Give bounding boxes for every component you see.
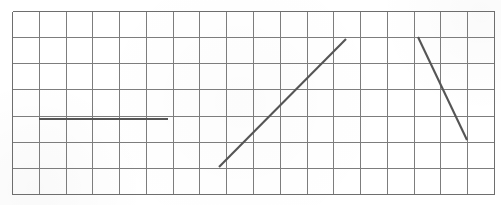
falling-diagonal-segment: [418, 37, 467, 140]
grid-line-figure: [0, 0, 501, 205]
rising-diagonal-segment: [219, 39, 346, 167]
figure-canvas: [0, 0, 501, 205]
grid-lines: [12, 11, 494, 194]
